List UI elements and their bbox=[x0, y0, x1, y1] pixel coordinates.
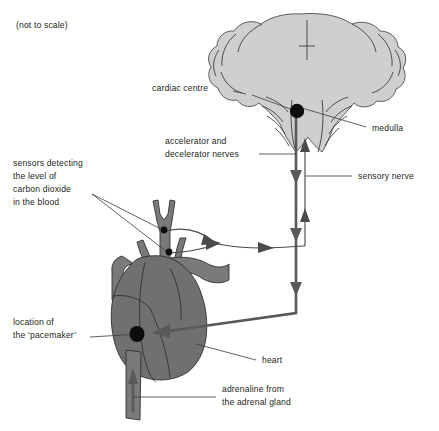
label-sensory-nerve: sensory nerve bbox=[358, 171, 414, 181]
efferent-arrow-2 bbox=[290, 228, 302, 242]
sensory-arrow-up-2 bbox=[300, 208, 310, 222]
label-cardiac-centre: cardiac centre bbox=[152, 83, 208, 93]
efferent-arrow-3 bbox=[290, 282, 302, 296]
leader-heart bbox=[196, 344, 256, 360]
co2-sensor-dot-lower bbox=[166, 249, 173, 256]
physiology-diagram: (not to scale) cardiac centre accelerato… bbox=[0, 0, 439, 431]
heart-rate-control-diagram: (not to scale) cardiac centre accelerato… bbox=[0, 0, 439, 431]
label-medulla: medulla bbox=[372, 123, 403, 133]
label-sensors-line1: sensors detecting bbox=[13, 158, 83, 168]
label-sensors-line4: in the blood bbox=[13, 197, 59, 207]
label-pacemaker-line1: location of bbox=[13, 317, 54, 327]
co2-sensor-dot-upper bbox=[161, 227, 168, 234]
label-heart: heart bbox=[262, 355, 283, 365]
label-sensors-line3: carbon dioxide bbox=[13, 184, 71, 194]
pacemaker-dot bbox=[130, 326, 145, 342]
scale-note: (not to scale) bbox=[16, 20, 68, 30]
leader-sensors-upper bbox=[92, 194, 163, 230]
label-adrenaline-line2: the adrenal gland bbox=[222, 397, 291, 407]
heart-body bbox=[111, 256, 207, 380]
label-pacemaker-line2: the ‘pacemaker’ bbox=[13, 330, 76, 340]
heart-group bbox=[111, 200, 229, 420]
efferent-arrow-1 bbox=[290, 170, 302, 184]
cardiac-centre-dot bbox=[290, 104, 304, 118]
label-sensors-line2: the level of bbox=[13, 171, 57, 181]
label-accelerator-line1: accelerator and bbox=[165, 136, 227, 146]
label-accelerator-line2: decelerator nerves bbox=[165, 149, 239, 159]
label-adrenaline-line1: adrenaline from bbox=[222, 384, 284, 394]
sensor-nerve-merged-arrow bbox=[258, 242, 274, 253]
